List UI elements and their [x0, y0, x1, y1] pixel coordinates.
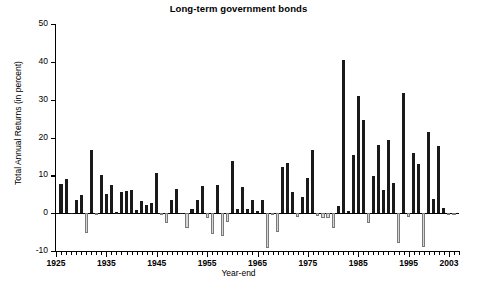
bar — [291, 192, 294, 214]
bar — [196, 200, 199, 214]
x-axis-major-tick — [258, 251, 259, 257]
x-axis-minor-tick — [268, 251, 269, 255]
y-axis-tick: 10 — [51, 175, 56, 176]
x-axis-minor-tick — [222, 251, 223, 255]
chart-title: Long-term government bonds — [0, 3, 477, 14]
bar — [190, 209, 193, 214]
bar — [397, 213, 400, 243]
x-axis-minor-tick — [152, 251, 153, 255]
bar — [276, 213, 279, 232]
bar — [271, 213, 274, 215]
y-axis-tick-label: 10 — [22, 169, 48, 179]
x-axis-minor-tick — [404, 251, 405, 255]
bar — [105, 194, 108, 213]
x-axis-major-tick — [308, 251, 309, 257]
bar — [306, 178, 309, 213]
bar — [95, 213, 98, 215]
x-axis-minor-tick — [303, 251, 304, 255]
bar — [155, 173, 158, 213]
bar — [231, 161, 234, 213]
bar — [337, 206, 340, 213]
x-axis-tick-label: 1995 — [399, 258, 418, 268]
bar — [372, 176, 375, 213]
x-axis-minor-tick — [439, 251, 440, 255]
x-axis-major-tick — [358, 251, 359, 257]
x-axis-minor-tick — [202, 251, 203, 255]
x-axis-minor-tick — [318, 251, 319, 255]
x-axis-minor-tick — [273, 251, 274, 255]
y-axis-tick-label: -10 — [22, 245, 48, 255]
y-axis-tick: 0 — [51, 213, 56, 214]
x-axis-major-tick — [157, 251, 158, 257]
bar — [85, 213, 88, 233]
x-axis-tick-label: 1955 — [198, 258, 217, 268]
x-axis-minor-tick — [323, 251, 324, 255]
bar — [160, 213, 163, 215]
x-axis-minor-tick — [348, 251, 349, 255]
bar — [442, 208, 445, 213]
x-axis-minor-tick — [137, 251, 138, 255]
bar — [115, 212, 118, 213]
x-axis-minor-tick — [399, 251, 400, 255]
x-axis-minor-tick — [263, 251, 264, 255]
x-axis-major-tick — [449, 251, 450, 257]
bar — [130, 190, 133, 213]
x-axis-minor-tick — [419, 251, 420, 255]
bar — [145, 205, 148, 213]
bar — [286, 163, 289, 213]
x-axis-minor-tick — [96, 251, 97, 255]
x-axis-minor-tick — [187, 251, 188, 255]
bar — [70, 213, 73, 214]
x-axis-major-tick — [409, 251, 410, 257]
x-axis-minor-tick — [454, 251, 455, 255]
x-axis-minor-tick — [333, 251, 334, 255]
bar — [392, 183, 395, 213]
x-axis-minor-tick — [237, 251, 238, 255]
y-axis-tick: 20 — [51, 138, 56, 139]
bar — [246, 209, 249, 214]
bar — [377, 145, 380, 213]
bar — [437, 146, 440, 213]
bar — [251, 200, 254, 213]
y-axis-tick-label: 50 — [22, 18, 48, 28]
bar — [281, 167, 284, 213]
x-axis-minor-tick — [338, 251, 339, 255]
bar — [256, 211, 259, 214]
bar — [266, 213, 269, 248]
bar — [321, 213, 324, 218]
x-axis-minor-tick — [101, 251, 102, 255]
bar — [427, 132, 430, 213]
x-axis-minor-tick — [116, 251, 117, 255]
x-axis-tick-label: 1945 — [147, 258, 166, 268]
bar — [412, 153, 415, 213]
bar — [80, 195, 83, 213]
x-axis-minor-tick — [328, 251, 329, 255]
x-axis-minor-tick — [373, 251, 374, 255]
bar — [316, 213, 319, 216]
bar — [226, 213, 229, 222]
bar — [347, 211, 350, 214]
y-axis-tick: 40 — [51, 62, 56, 63]
x-axis-minor-tick — [252, 251, 253, 255]
bar — [447, 213, 450, 215]
x-axis-minor-tick — [217, 251, 218, 255]
x-axis-tick-label: 1965 — [248, 258, 267, 268]
bar — [75, 200, 78, 213]
bar — [206, 213, 209, 218]
x-axis-minor-tick — [76, 251, 77, 255]
x-axis-minor-tick — [91, 251, 92, 255]
x-axis-minor-tick — [313, 251, 314, 255]
x-axis-minor-tick — [71, 251, 72, 255]
chart-figure: Long-term government bonds Total Annual … — [0, 0, 477, 283]
x-axis-minor-tick — [293, 251, 294, 255]
x-axis-label: Year-end — [0, 268, 477, 278]
x-axis-minor-tick — [388, 251, 389, 255]
x-axis-minor-tick — [147, 251, 148, 255]
bar — [422, 213, 425, 247]
bar — [135, 210, 138, 213]
bar — [59, 184, 62, 214]
x-axis-tick-label: 1925 — [47, 258, 66, 268]
x-axis-minor-tick — [283, 251, 284, 255]
x-axis-minor-tick — [444, 251, 445, 255]
x-axis-minor-tick — [177, 251, 178, 255]
